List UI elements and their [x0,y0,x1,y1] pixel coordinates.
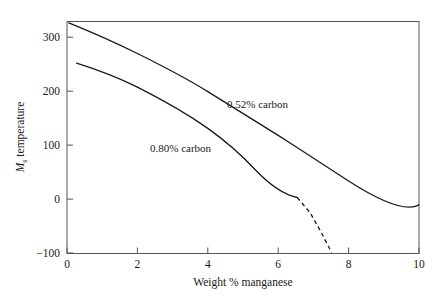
series-line-052-carbon [69,23,419,207]
y-tick-label-0: 0 [54,193,60,205]
x-tick-label-8: 8 [346,258,352,270]
x-axis-tick-labels: 0 2 4 6 8 10 [64,258,425,270]
plot-frame [67,22,419,254]
x-tick-label-2: 2 [135,258,141,270]
x-tick-label-4: 4 [205,258,211,270]
chart-figure: 0 2 4 6 8 10 300 200 100 0 −100 Weight %… [0,0,443,298]
x-axis-ticks [67,248,419,254]
y-axis-ticks [67,37,73,253]
series-annotation-052-carbon: 0.52% carbon [227,98,289,110]
y-axis-tick-labels: 300 200 100 0 −100 [36,31,60,259]
series-line-080-carbon-solid [77,63,298,197]
y-tick-label-neg100: −100 [36,247,60,259]
x-tick-label-0: 0 [64,258,70,270]
series-annotation-080-carbon: 0.80% carbon [150,142,212,154]
y-tick-label-100: 100 [43,139,61,151]
y-axis-title-tail: temperature [14,102,27,160]
y-tick-label-300: 300 [43,31,61,43]
ms-temperature-line-chart: 0 2 4 6 8 10 300 200 100 0 −100 Weight %… [0,0,443,298]
x-tick-label-10: 10 [413,258,425,270]
y-axis-title: Ms temperature [14,102,29,174]
x-tick-label-6: 6 [275,258,281,270]
svg-text:Ms temperature: Ms temperature [14,102,29,174]
series-line-080-carbon-dashed [297,198,331,253]
x-axis-title: Weight % manganese [193,276,292,289]
y-tick-label-200: 200 [43,85,61,97]
